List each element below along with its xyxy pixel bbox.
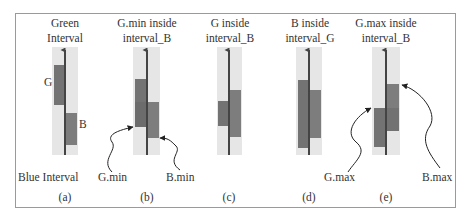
blue-interval-rect xyxy=(310,90,321,138)
panel-a-caption: (a) xyxy=(59,191,72,204)
panel-e-title-line2: interval_B xyxy=(362,32,411,44)
gmin-pointer-arrow-icon xyxy=(108,127,133,172)
blue-interval-rect xyxy=(65,113,77,145)
gmin-label: G.min xyxy=(98,171,127,183)
panel-c: G inside interval_B (c) xyxy=(206,17,255,204)
bmax-pointer-arrow-icon xyxy=(402,85,440,168)
overlap-region xyxy=(387,108,399,131)
interval-diagram: Green Interval G B Blue Interval (a) G.m… xyxy=(0,0,472,222)
panel-e: G.max inside interval_B G.max B.max (e) xyxy=(324,17,453,204)
g-label: G xyxy=(44,76,52,88)
panel-b-title-line1: G.min inside xyxy=(117,17,176,29)
panel-b-caption: (b) xyxy=(140,191,154,204)
blue-interval-rect xyxy=(230,90,241,137)
gmax-pointer-arrow-icon xyxy=(348,108,371,172)
panel-e-caption: (e) xyxy=(380,191,393,204)
panel-d-title-line2: interval_G xyxy=(285,32,334,44)
blue-interval-label: Blue Interval xyxy=(18,171,78,183)
b-label: B xyxy=(79,118,87,130)
green-interval-rect xyxy=(54,65,65,105)
overlap-region xyxy=(135,102,147,127)
bmax-label: B.max xyxy=(422,171,453,183)
panel-d-caption: (d) xyxy=(302,191,316,204)
panel-c-title-line2: interval_B xyxy=(206,32,255,44)
panel-b: G.min inside interval_B G.min B.min (b) xyxy=(98,17,195,204)
panel-e-title-line1: G.max inside xyxy=(355,17,416,29)
blue-interval-rect xyxy=(147,102,159,138)
panel-d-title-line1: B inside xyxy=(291,17,329,29)
panel-c-caption: (c) xyxy=(223,191,236,204)
panel-b-title-line2: interval_B xyxy=(123,32,172,44)
bmin-pointer-arrow-icon xyxy=(160,138,180,170)
panel-a: Green Interval G B Blue Interval (a) xyxy=(18,17,87,204)
panel-c-title-line1: G inside xyxy=(211,17,250,29)
panel-a-title-line2: Interval xyxy=(47,32,83,44)
gmax-label: G.max xyxy=(324,171,355,183)
panel-a-title-line1: Green xyxy=(51,17,79,29)
bmin-label: B.min xyxy=(166,171,195,183)
